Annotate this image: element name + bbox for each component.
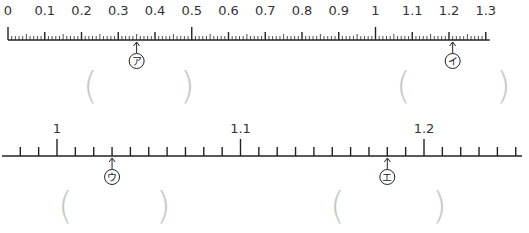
- answer-blank-u[interactable]: [76, 188, 152, 222]
- answer-blank-open-a: (: [83, 63, 98, 107]
- answer-blanks: ()()()(): [58, 63, 511, 227]
- top-tick-label: 1.3: [475, 3, 496, 18]
- top-tick-label: 0.2: [71, 3, 92, 18]
- answer-blank-e[interactable]: [348, 188, 428, 222]
- top-tick-label: 0.7: [255, 3, 276, 18]
- bottom-tick-label: 1.1: [230, 121, 251, 136]
- top-ruler: 00.10.20.30.40.50.60.70.80.911.11.21.3アイ: [4, 3, 496, 69]
- top-tick-label: 0: [4, 3, 12, 18]
- number-line-diagram: 00.10.20.30.40.50.60.70.80.911.11.21.3アイ…: [0, 0, 529, 233]
- answer-blank-close-i: ): [496, 63, 511, 107]
- bottom-tick-label: 1: [53, 121, 61, 136]
- top-tick-label: 1.2: [439, 3, 460, 18]
- answer-blank-open-u: (: [58, 183, 73, 227]
- pointer-label-i: イ: [448, 56, 458, 67]
- answer-blank-open-e: (: [330, 183, 345, 227]
- top-tick-label: 1: [371, 3, 379, 18]
- pointer-label-e: エ: [382, 172, 392, 183]
- top-tick-label: 0.3: [108, 3, 129, 18]
- answer-blank-i[interactable]: [414, 68, 492, 102]
- answer-blank-open-i: (: [396, 63, 411, 107]
- answer-blank-a[interactable]: [101, 68, 176, 102]
- bottom-ruler: 11.11.2ウエ: [2, 121, 522, 185]
- top-tick-label: 0.5: [181, 3, 202, 18]
- pointer-label-a: ア: [132, 56, 142, 67]
- top-tick-label: 0.6: [218, 3, 239, 18]
- top-tick-label: 0.9: [328, 3, 349, 18]
- answer-blank-close-e: ): [432, 183, 447, 227]
- top-tick-label: 0.4: [145, 3, 166, 18]
- answer-blank-close-a: ): [180, 63, 195, 107]
- answer-blank-close-u: ): [156, 183, 171, 227]
- bottom-tick-label: 1.2: [414, 121, 435, 136]
- top-tick-label: 0.1: [34, 3, 55, 18]
- top-tick-label: 1.1: [402, 3, 423, 18]
- top-tick-label: 0.8: [292, 3, 313, 18]
- pointer-label-u: ウ: [107, 172, 117, 183]
